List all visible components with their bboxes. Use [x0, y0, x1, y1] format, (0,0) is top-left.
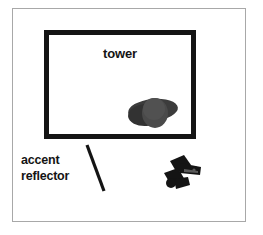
leader-line [80, 140, 114, 196]
tower-label: tower [49, 47, 191, 61]
accent-reflector-label-line1: accent [21, 152, 69, 168]
accent-reflector-label-line2: reflector [21, 168, 69, 184]
accent-reflector-label: accent reflector [21, 152, 69, 184]
dark-rounded-object-icon [124, 93, 180, 131]
diagram-canvas: tower accent reflector [0, 0, 263, 235]
dark-clamp-object-icon [160, 153, 206, 195]
